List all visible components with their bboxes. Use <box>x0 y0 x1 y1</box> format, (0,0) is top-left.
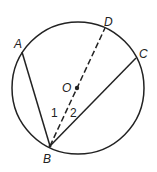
label-b: B <box>43 152 51 166</box>
center-point-o <box>75 86 79 90</box>
geometry-diagram: A B C D O 1 2 <box>0 0 157 172</box>
label-d: D <box>104 15 113 29</box>
label-c: C <box>139 47 148 61</box>
chord-bc <box>50 58 136 146</box>
label-o: O <box>62 81 71 95</box>
chord-ab <box>22 52 50 146</box>
angle-label-2: 2 <box>70 106 77 120</box>
angle-label-1: 1 <box>51 106 58 120</box>
label-a: A <box>13 37 22 51</box>
vertex-point-b <box>49 145 52 148</box>
